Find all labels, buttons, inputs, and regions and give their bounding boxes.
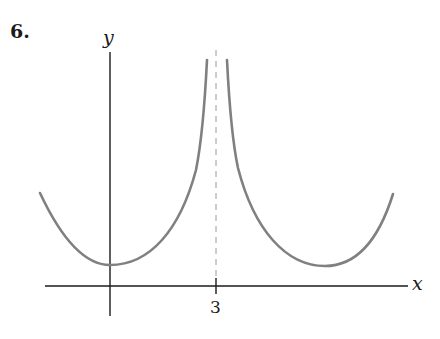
x-axis-label: x <box>412 272 423 294</box>
x-tick-label-3: 3 <box>210 297 221 317</box>
right-branch-curve <box>227 60 393 266</box>
graph-canvas <box>0 0 440 339</box>
left-branch-curve <box>40 60 207 265</box>
y-axis-label: y <box>103 26 114 48</box>
graph-figure: 6. y x 3 <box>0 0 440 339</box>
